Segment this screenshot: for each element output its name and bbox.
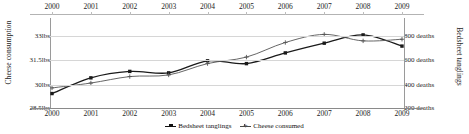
y-tick-right-0: 800 deaths	[404, 32, 434, 40]
legend-label-bedsheet-tanglings: Bedsheet tanglings	[178, 122, 231, 130]
data-point-marker	[128, 70, 131, 73]
x-tick-label: 2004	[188, 109, 228, 118]
x-tick-mark	[208, 12, 209, 15]
y-tick-left-0: 33lbs	[35, 32, 50, 40]
data-point-marker	[283, 40, 287, 44]
x-tick-label: 2001	[71, 109, 111, 118]
x-tick-mark	[285, 12, 286, 15]
x-tick-label: 2002	[110, 109, 150, 118]
x-tick-label: 2006	[265, 109, 305, 118]
legend-item-cheese-consumed: + Cheese consumed	[240, 122, 303, 130]
data-point-marker	[50, 86, 54, 90]
plot-area	[50, 18, 404, 108]
x-axis-top-ticks: 2000200120022003200420052006200720082009	[0, 2, 469, 14]
y-tick-right-2: 400 deaths	[404, 81, 434, 89]
x-tick-mark	[402, 12, 403, 15]
x-tick-mark	[91, 12, 92, 15]
series-layer	[50, 18, 404, 108]
spurious-correlation-chart: Cheese consumption Bedsheet tanglings 33…	[0, 0, 469, 134]
x-tick-mark	[363, 12, 364, 15]
x-tick-label: 2004	[188, 2, 228, 11]
data-point-marker	[89, 76, 92, 79]
data-point-marker	[400, 37, 404, 41]
x-tick-label: 2005	[226, 2, 266, 11]
legend-item-bedsheet-tanglings: Bedsheet tanglings	[165, 122, 231, 130]
legend-marker-plus-icon: +	[240, 122, 251, 130]
x-tick-mark	[169, 12, 170, 15]
x-tick-label: 2009	[382, 109, 422, 118]
y-tick-right-1: 600 deaths	[404, 56, 434, 64]
x-tick-label: 2009	[382, 2, 422, 11]
top-axis-line	[30, 14, 424, 15]
x-tick-label: 2007	[304, 2, 344, 11]
x-tick-mark	[324, 12, 325, 15]
y-tick-left-2: 30lbs	[35, 81, 50, 89]
x-tick-label: 2008	[343, 2, 383, 11]
x-tick-label: 2003	[149, 2, 189, 11]
data-point-marker	[245, 62, 248, 65]
right-axis-line	[404, 18, 405, 108]
data-point-marker	[361, 39, 365, 43]
x-tick-label: 2003	[149, 109, 189, 118]
y-tick-left-1: 31.5lbs	[30, 56, 50, 64]
data-point-marker	[128, 74, 132, 78]
data-point-marker	[400, 44, 403, 47]
legend-label-cheese-consumed: Cheese consumed	[253, 122, 303, 130]
x-tick-label: 2008	[343, 109, 383, 118]
x-tick-label: 2006	[265, 2, 305, 11]
data-point-marker	[323, 41, 326, 44]
gridline-33	[50, 36, 404, 37]
legend-marker-square-icon	[165, 122, 176, 130]
x-tick-label: 2007	[304, 109, 344, 118]
x-tick-mark	[130, 12, 131, 15]
x-axis-bottom-ticks: 2000200120022003200420052006200720082009	[0, 109, 469, 121]
data-point-marker	[244, 55, 248, 59]
chart-legend: Bedsheet tanglings + Cheese consumed	[0, 122, 469, 130]
series-line	[52, 34, 402, 88]
x-tick-mark	[246, 12, 247, 15]
gridline-30	[50, 85, 404, 86]
x-tick-mark	[52, 12, 53, 15]
series-cheese-consumed	[50, 32, 404, 90]
x-tick-label: 2005	[226, 109, 266, 118]
x-tick-label: 2002	[110, 2, 150, 11]
gridline-31-5	[50, 60, 404, 61]
data-point-marker	[284, 51, 287, 54]
x-tick-label: 2000	[32, 2, 72, 11]
data-point-marker	[50, 92, 53, 95]
x-tick-label: 2000	[32, 109, 72, 118]
x-tick-label: 2001	[71, 2, 111, 11]
